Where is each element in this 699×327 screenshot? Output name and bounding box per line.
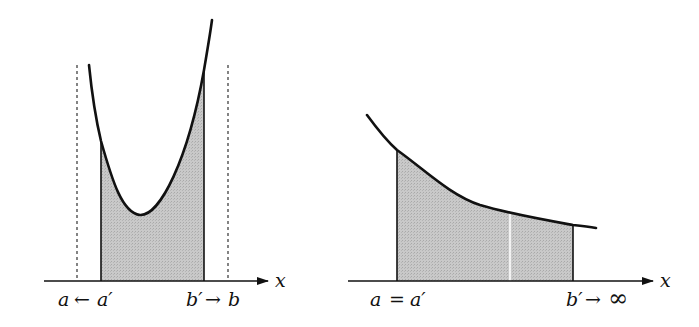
- left-label-a: a ← a′: [58, 288, 113, 310]
- left-label-b: b′ → b: [186, 288, 240, 310]
- left-shaded-area: [101, 70, 204, 281]
- left-plot: x a ← a′ b′ → b: [44, 20, 286, 310]
- right-label-b: b′ → ∞: [566, 284, 628, 312]
- right-label-a: a = a′: [370, 288, 426, 310]
- right-axis-label: x: [660, 269, 671, 291]
- left-axis-label: x: [275, 269, 286, 291]
- diagram-canvas: x a ← a′ b′ → b x a = a′ b: [0, 0, 699, 327]
- right-plot: x a = a′ b′ → ∞: [348, 115, 671, 312]
